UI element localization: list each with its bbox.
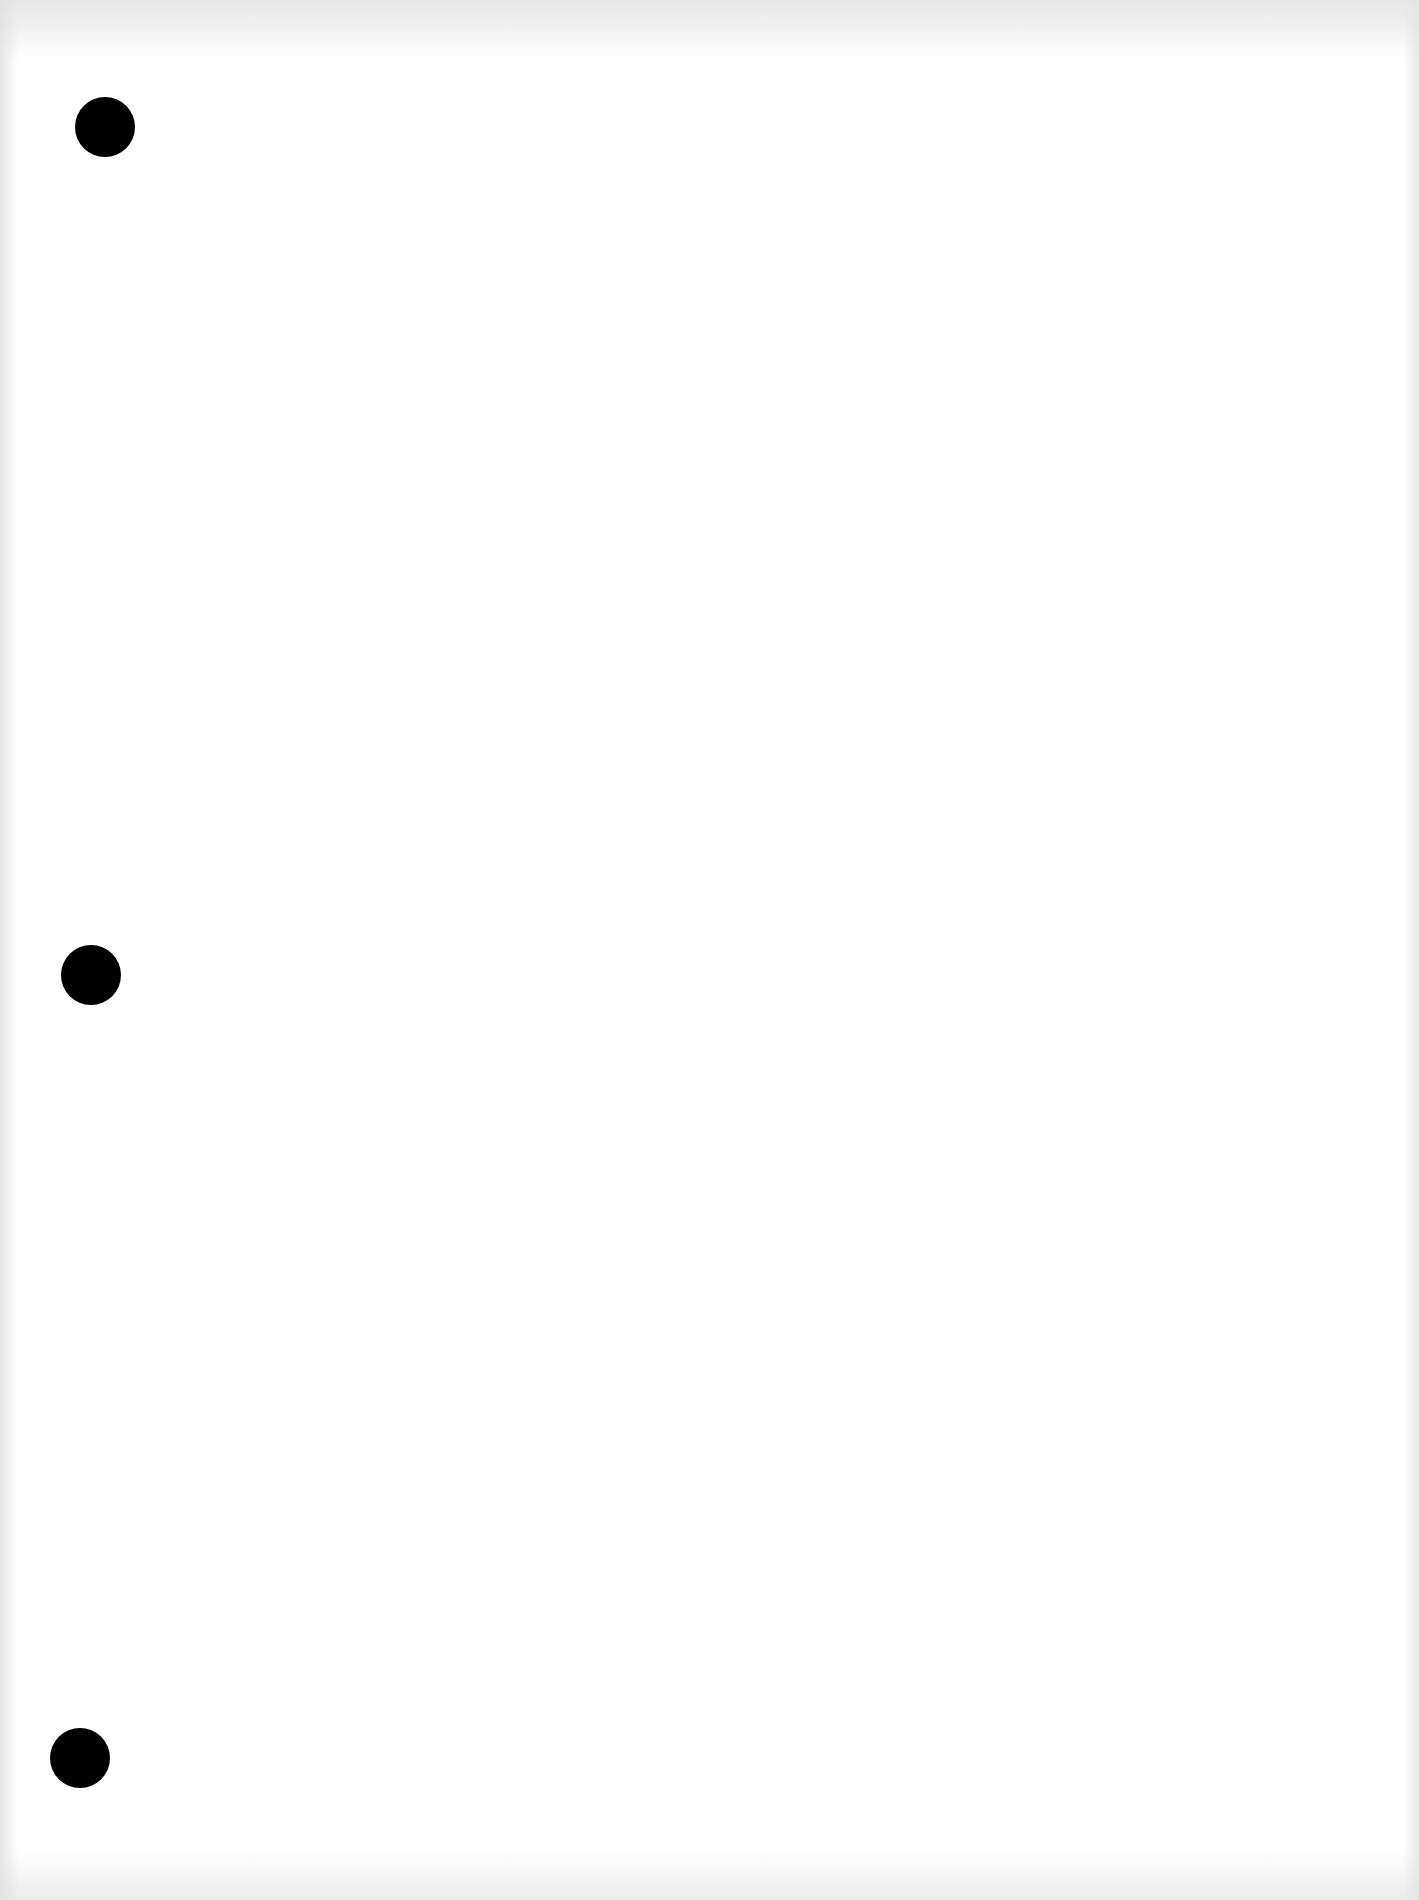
punch-hole-top-icon: [75, 97, 135, 157]
scan-shadow-right: [1403, 0, 1419, 1900]
punch-hole-bottom-icon: [50, 1728, 110, 1788]
scan-shadow-left: [0, 0, 18, 1900]
scan-shadow-top: [0, 0, 1419, 60]
punch-hole-middle-icon: [61, 945, 121, 1005]
blank-paper-sheet: [0, 0, 1419, 1900]
scan-shadow-bottom: [0, 1850, 1419, 1900]
